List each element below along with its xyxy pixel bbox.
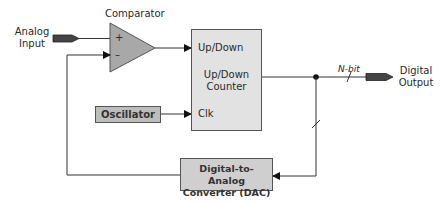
comparator-plus-sign: + [115, 32, 123, 44]
oscillator-label: Oscillator [96, 109, 160, 121]
comparator-label: Comparator [105, 8, 165, 20]
digital-output-pin-icon [366, 74, 393, 81]
dac-label-line2: Converter (DAC) [181, 187, 272, 199]
up-down-counter-block: Up/Down Up/Down Counter Clk [191, 29, 262, 131]
wire-junction-to-dac [273, 77, 316, 176]
counter-updown-input-label: Up/Down [198, 42, 243, 54]
comparator-minus-sign: – [115, 49, 120, 61]
counter-name-line1: Up/Down [192, 69, 261, 81]
n-bit-label: N-bit [338, 63, 360, 75]
analog-input-label: Analog Input [14, 26, 50, 50]
counter-clk-label: Clk [198, 108, 214, 120]
oscillator-block: Oscillator [95, 106, 161, 123]
analog-input-label-line1: Analog [14, 26, 50, 38]
dac-block: Digital-to-Analog Converter (DAC) [180, 158, 273, 191]
analog-input-pin-icon [53, 35, 79, 42]
counter-name-label: Up/Down Counter [192, 69, 261, 93]
digital-output-line1: Digital [396, 65, 436, 77]
analog-input-label-line2: Input [14, 38, 50, 50]
dac-label: Digital-to-Analog Converter (DAC) [181, 163, 272, 199]
counter-name-line2: Counter [192, 81, 261, 93]
comparator-triangle [110, 23, 155, 72]
digital-output-line2: Output [396, 77, 436, 89]
digital-output-label: Digital Output [396, 65, 436, 89]
dac-label-line1: Digital-to-Analog [181, 163, 272, 187]
